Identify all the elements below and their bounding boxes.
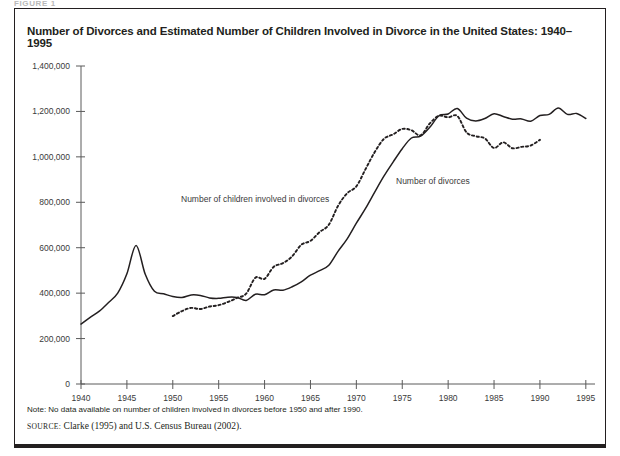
x-axis-tick-label: 1970	[347, 393, 366, 403]
x-axis-tick-label: 1995	[576, 393, 595, 403]
chart-source: source: Clarke (1995) and U.S. Census Bu…	[27, 421, 242, 431]
series-annotation-divorces: Number of divorces	[396, 176, 470, 186]
series-line-children	[173, 115, 540, 316]
series-annotation-children: Number of children involved in divorces	[181, 194, 329, 204]
figure-number-label: FIGURE 1	[14, 0, 56, 6]
x-axis-tick-label: 1960	[255, 393, 274, 403]
x-axis-tick-label: 1955	[209, 393, 228, 403]
y-axis-tick-label: 0	[15, 379, 70, 389]
chart-note: Note: No data available on number of chi…	[27, 405, 363, 414]
y-axis-tick-label: 200,000	[15, 334, 70, 344]
y-axis-tick-label: 1,400,000	[15, 61, 70, 71]
x-axis-tick-label: 1975	[393, 393, 412, 403]
chart-axes	[81, 66, 595, 384]
x-axis-tick-label: 1980	[439, 393, 458, 403]
y-axis-tick-label: 400,000	[15, 288, 70, 298]
source-text: Clarke (1995) and U.S. Census Bureau (20…	[64, 421, 242, 431]
bottom-rule	[15, 444, 606, 447]
source-prefix: source:	[27, 422, 61, 431]
chart-plot-area: 0200,000400,000600,000800,0001,000,0001,…	[15, 9, 606, 448]
x-axis-tick-label: 1940	[72, 393, 91, 403]
x-axis-tick-label: 1965	[301, 393, 320, 403]
x-axis-tick-label: 1945	[117, 393, 136, 403]
y-axis-tick-label: 600,000	[15, 243, 70, 253]
y-axis-tick-label: 1,200,000	[15, 106, 70, 116]
x-axis-tick-label: 1990	[530, 393, 549, 403]
figure-card: Number of Divorces and Estimated Number …	[14, 8, 606, 448]
x-axis-tick-label: 1950	[163, 393, 182, 403]
line-chart	[15, 9, 606, 448]
chart-series-group	[81, 108, 586, 324]
y-axis-tick-label: 800,000	[15, 197, 70, 207]
x-axis-tick-label: 1985	[485, 393, 504, 403]
y-axis-tick-label: 1,000,000	[15, 152, 70, 162]
